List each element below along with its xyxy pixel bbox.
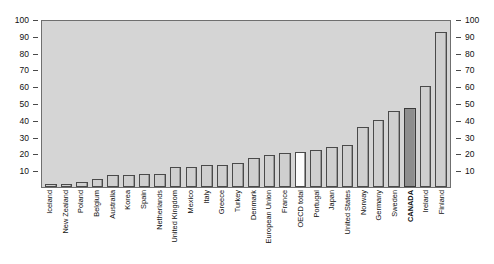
- category-slot: Ireland: [419, 190, 435, 264]
- category-label-finland: Finland: [438, 190, 446, 214]
- bar-slot: [168, 21, 184, 187]
- x-axis-category-labels: IcelandNew ZealandPolandBelgiumAustralia…: [41, 190, 451, 264]
- y-tick-mark-left-20: [33, 154, 38, 155]
- y-tick-mark-right-40: [456, 121, 461, 122]
- y-tick-label-right-10: 10: [465, 167, 474, 175]
- y-tick-label-left-40: 40: [20, 117, 29, 125]
- y-tick-label-right-30: 30: [465, 134, 474, 142]
- y-tick-label-right-80: 80: [465, 50, 474, 58]
- category-slot: CANADA: [403, 190, 419, 264]
- category-label-united-states: United States: [344, 190, 352, 234]
- y-tick-mark-left-50: [33, 104, 38, 105]
- bar-mexico: [186, 167, 198, 187]
- y-tick-mark-left-30: [33, 138, 38, 139]
- y-axis-right: 102030405060708090100: [455, 20, 493, 188]
- category-slot: Norway: [356, 190, 372, 264]
- category-slot: Turkey: [230, 190, 246, 264]
- bar-denmark: [248, 158, 260, 187]
- bar-finland: [435, 32, 447, 187]
- category-slot: Portugal: [309, 190, 325, 264]
- y-tick-mark-right-60: [456, 87, 461, 88]
- y-tick-mark-left-60: [33, 87, 38, 88]
- category-label-korea: Korea: [124, 190, 132, 210]
- category-slot: New Zealand: [58, 190, 74, 264]
- bar-slot: [277, 21, 293, 187]
- bar-slot: [340, 21, 356, 187]
- y-tick-mark-right-100: [456, 20, 461, 21]
- y-axis-left: 102030405060708090100: [1, 20, 39, 188]
- category-label-canada: CANADA: [407, 190, 415, 222]
- y-tick-label-left-60: 60: [20, 83, 29, 91]
- bar-oecd-total: [295, 152, 307, 187]
- bar-slot: [402, 21, 418, 187]
- category-label-germany: Germany: [375, 190, 383, 220]
- bar-france: [279, 153, 291, 187]
- bar-slot: [152, 21, 168, 187]
- category-slot: Germany: [371, 190, 387, 264]
- bar-slot: [386, 21, 402, 187]
- category-slot: Mexico: [183, 190, 199, 264]
- bar-iceland: [45, 184, 57, 187]
- category-label-sweden: Sweden: [391, 190, 399, 217]
- category-slot: Denmark: [246, 190, 262, 264]
- y-tick-label-left-50: 50: [20, 100, 29, 108]
- bar-italy: [201, 165, 213, 187]
- bar-australia: [107, 175, 119, 187]
- y-tick-label-left-20: 20: [20, 150, 29, 158]
- bar-korea: [123, 175, 135, 187]
- y-tick-label-right-60: 60: [465, 83, 474, 91]
- category-label-japan: Japan: [328, 190, 336, 210]
- category-label-united-kingdom: United Kingdom: [171, 190, 179, 243]
- bar-slot: [324, 21, 340, 187]
- category-slot: Spain: [136, 190, 152, 264]
- y-tick-label-right-90: 90: [465, 33, 474, 41]
- y-tick-label-right-40: 40: [465, 117, 474, 125]
- category-label-portugal: Portugal: [313, 190, 321, 218]
- category-label-belgium: Belgium: [93, 190, 101, 217]
- bar-netherlands: [154, 174, 166, 187]
- bar-united-states: [342, 145, 354, 187]
- y-tick-mark-left-80: [33, 54, 38, 55]
- bar-spain: [139, 174, 151, 187]
- category-slot: Japan: [324, 190, 340, 264]
- category-slot: European Union: [262, 190, 278, 264]
- y-tick-mark-left-10: [33, 171, 38, 172]
- y-tick-mark-right-90: [456, 37, 461, 38]
- category-label-france: France: [281, 190, 289, 213]
- bar-series: [42, 21, 450, 187]
- bar-slot: [293, 21, 309, 187]
- bar-slot: [183, 21, 199, 187]
- bar-european-union: [264, 155, 276, 187]
- bar-slot: [105, 21, 121, 187]
- y-tick-mark-left-70: [33, 70, 38, 71]
- bar-slot: [246, 21, 262, 187]
- bar-slot: [262, 21, 278, 187]
- category-label-ireland: Ireland: [422, 190, 430, 213]
- category-slot: Greece: [215, 190, 231, 264]
- category-slot: Netherlands: [152, 190, 168, 264]
- y-tick-mark-right-30: [456, 138, 461, 139]
- category-label-italy: Italy: [203, 190, 211, 204]
- bar-slot: [308, 21, 324, 187]
- y-tick-label-right-100: 100: [465, 16, 479, 24]
- category-slot: Finland: [434, 190, 450, 264]
- y-tick-mark-right-50: [456, 104, 461, 105]
- category-slot: France: [277, 190, 293, 264]
- category-label-australia: Australia: [109, 190, 117, 219]
- category-slot: Poland: [73, 190, 89, 264]
- bar-germany: [373, 120, 385, 187]
- y-tick-mark-right-80: [456, 54, 461, 55]
- bar-slot: [371, 21, 387, 187]
- category-slot: Iceland: [42, 190, 58, 264]
- bar-slot: [121, 21, 137, 187]
- y-tick-label-right-50: 50: [465, 100, 474, 108]
- y-tick-label-left-80: 80: [20, 50, 29, 58]
- bar-slot: [43, 21, 59, 187]
- category-slot: Sweden: [387, 190, 403, 264]
- category-slot: Belgium: [89, 190, 105, 264]
- bar-slot: [59, 21, 75, 187]
- bar-portugal: [310, 150, 322, 187]
- bar-poland: [76, 182, 88, 187]
- y-tick-label-left-90: 90: [20, 33, 29, 41]
- bar-slot: [74, 21, 90, 187]
